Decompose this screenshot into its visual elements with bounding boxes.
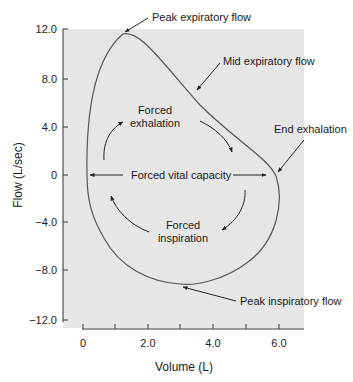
y-tick-label: −8.0 [35, 264, 57, 276]
label-peak-inspiratory: Peak inspiratory flow [240, 295, 342, 307]
x-tick-label: 0 [80, 337, 86, 349]
y-tick-label: 4.0 [42, 121, 57, 133]
label-forced-exhalation-2: exhalation [130, 117, 180, 129]
x-tick-label: 6.0 [271, 337, 286, 349]
label-mid-expiratory: Mid expiratory flow [223, 55, 315, 67]
x-tick-label: 2.0 [140, 337, 155, 349]
label-forced-inspiration-1: Forced [166, 219, 200, 231]
y-tick-label: −4.0 [35, 216, 57, 228]
y-tick-label: 0 [51, 169, 57, 181]
x-tick-label: 4.0 [205, 337, 220, 349]
y-axis-label: Flow (L/sec) [11, 142, 25, 207]
y-tick-label: 8.0 [42, 73, 57, 85]
label-forced-vital-capacity: Forced vital capacity [131, 169, 232, 181]
x-axis-label: Volume (L) [155, 360, 213, 374]
label-forced-exhalation-1: Forced [138, 104, 172, 116]
label-end-exhalation: End exhalation [274, 123, 347, 135]
x-tick-labels: 0 2.0 4.0 6.0 [80, 337, 287, 349]
y-tick-label: 12.0 [36, 23, 57, 35]
label-peak-expiratory: Peak expiratory flow [152, 11, 251, 23]
flow-volume-loop-diagram: 12.0 8.0 4.0 0 −4.0 −8.0 −12.0 Flow (L/s… [0, 0, 353, 382]
label-forced-inspiration-2: inspiration [158, 232, 208, 244]
y-tick-labels: 12.0 8.0 4.0 0 −4.0 −8.0 −12.0 [29, 23, 57, 326]
y-tick-label: −12.0 [29, 314, 57, 326]
